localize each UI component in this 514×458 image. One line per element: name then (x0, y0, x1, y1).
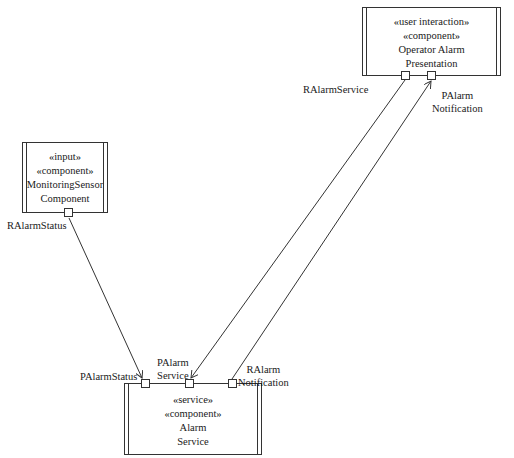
component-monitoring-sensor[interactable]: «input» «component» MonitoringSensor Com… (22, 142, 108, 213)
component-text: «user interaction» «component» Operator … (363, 15, 500, 71)
label-line: RAlarm (238, 363, 289, 376)
stereotype-input: «input» (23, 150, 107, 164)
stereotype-component: «component» (23, 164, 107, 178)
component-name-line-2: Presentation (363, 57, 500, 71)
label-line: Notification (238, 376, 289, 389)
label-palarmstatus: PAlarmStatus (80, 370, 137, 383)
label-ralarm-notification: RAlarm Notification (238, 363, 289, 389)
stereotype-user-interaction: «user interaction» (363, 15, 500, 29)
stereotype-component: «component» (363, 29, 500, 43)
component-text: «service» «component» Alarm Service (125, 393, 261, 449)
label-line: PAlarm (432, 89, 483, 102)
component-alarm-service[interactable]: «service» «component» Alarm Service (124, 383, 262, 455)
label-line: PAlarm (157, 356, 189, 369)
port-palarm-notification-operator[interactable] (427, 71, 436, 80)
label-palarm-notification-operator: PAlarm Notification (432, 89, 483, 115)
label-line: Notification (432, 102, 483, 115)
stereotype-component: «component» (125, 407, 261, 421)
port-ralarmservice[interactable] (401, 71, 410, 80)
component-name-line-2: Service (125, 435, 261, 449)
component-text: «input» «component» MonitoringSensor Com… (23, 150, 107, 206)
component-name-line-1: MonitoringSensor (23, 178, 107, 192)
port-palarmstatus[interactable] (141, 379, 150, 388)
component-name-line-1: Operator Alarm (363, 43, 500, 57)
connector-alarm-status (69, 218, 142, 378)
component-name-line-1: Alarm (125, 421, 261, 435)
connector-alarm-service (191, 80, 405, 378)
label-ralarmstatus: RAlarmStatus (7, 219, 67, 232)
connector-alarm-notification (232, 81, 431, 379)
port-ralarmstatus[interactable] (64, 208, 73, 217)
label-palarm-service: PAlarm Service (157, 356, 189, 382)
label-line: Service (157, 369, 189, 382)
stereotype-service: «service» (125, 393, 261, 407)
component-name-line-2: Component (23, 192, 107, 206)
label-ralarmservice: RAlarmService (303, 83, 368, 96)
port-ralarm-notification[interactable] (228, 379, 237, 388)
component-operator-alarm-presentation[interactable]: «user interaction» «component» Operator … (362, 7, 501, 76)
